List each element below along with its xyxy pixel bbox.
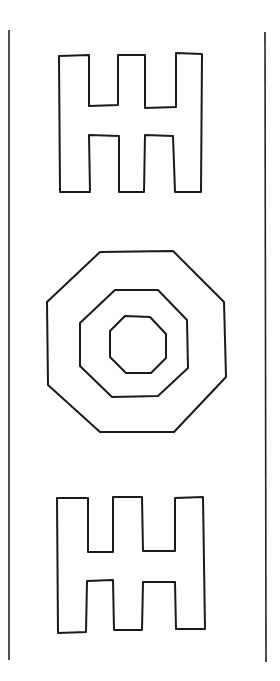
octagon-outer [47,251,226,432]
top-comb-shape [59,53,202,192]
bottom-comb-shape [57,497,205,633]
octagon-inner [110,316,166,373]
decorative-band-figure [0,0,280,681]
right-border-line [265,32,266,662]
octagon-middle [80,290,188,397]
